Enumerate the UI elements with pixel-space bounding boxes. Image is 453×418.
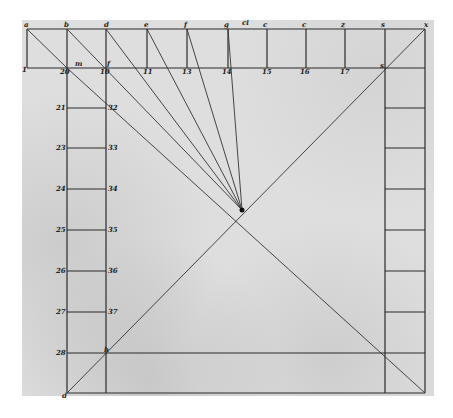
- svg-text:37: 37: [108, 307, 118, 316]
- svg-text:a: a: [24, 20, 29, 29]
- svg-text:13: 13: [182, 67, 192, 76]
- svg-text:s: s: [381, 20, 385, 29]
- svg-text:e: e: [144, 20, 149, 29]
- svg-text:33: 33: [108, 143, 118, 152]
- svg-text:x: x: [423, 20, 429, 29]
- svg-text:27: 27: [55, 307, 66, 316]
- svg-text:20: 20: [59, 67, 70, 76]
- svg-text:h: h: [104, 345, 109, 354]
- svg-text:b: b: [64, 20, 69, 29]
- labels: a b d e f g ci c c z s x 1 20 10 11 13 1…: [22, 18, 429, 400]
- svg-text:25: 25: [55, 225, 66, 234]
- svg-text:c: c: [302, 20, 307, 29]
- svg-text:14: 14: [222, 67, 232, 76]
- svg-text:34: 34: [108, 184, 118, 193]
- svg-text:10: 10: [100, 67, 110, 76]
- svg-text:z: z: [340, 20, 346, 29]
- svg-text:21: 21: [55, 103, 66, 112]
- svg-text:ci: ci: [242, 18, 249, 27]
- svg-text:c: c: [263, 20, 268, 29]
- svg-text:11: 11: [143, 67, 153, 76]
- svg-text:f: f: [183, 20, 189, 29]
- svg-text:16: 16: [300, 67, 310, 76]
- diagonal-descending: [67, 68, 425, 393]
- perspective-drawing: a b d e f g ci c c z s x 1 20 10 11 13 1…: [0, 0, 453, 418]
- svg-text:28: 28: [55, 348, 66, 357]
- svg-text:s: s: [380, 61, 384, 70]
- svg-text:17: 17: [340, 67, 350, 76]
- svg-text:f: f: [106, 59, 112, 68]
- svg-text:36: 36: [108, 266, 118, 275]
- svg-text:g: g: [224, 20, 229, 29]
- svg-text:m: m: [75, 59, 82, 68]
- svg-text:32: 32: [108, 103, 118, 112]
- vanishing-point: [240, 208, 245, 213]
- svg-text:35: 35: [108, 225, 118, 234]
- svg-text:15: 15: [262, 67, 272, 76]
- diagonal-ascending: [67, 29, 425, 393]
- svg-text:d: d: [62, 391, 67, 400]
- svg-text:1: 1: [22, 65, 27, 74]
- svg-text:23: 23: [55, 143, 66, 152]
- svg-text:24: 24: [55, 184, 66, 193]
- svg-text:26: 26: [55, 266, 66, 275]
- svg-text:d: d: [104, 20, 109, 29]
